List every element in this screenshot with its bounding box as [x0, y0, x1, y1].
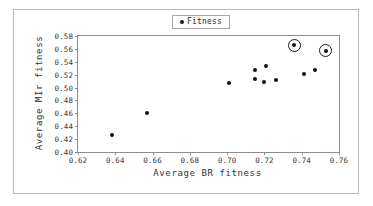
- x-tick-label: 0.74: [292, 156, 310, 165]
- y-tick-label: 0.42: [55, 135, 73, 144]
- y-tick-mark: [75, 126, 78, 127]
- x-tick-label: 0.70: [218, 156, 236, 165]
- data-point: [253, 77, 257, 81]
- data-point: [227, 81, 231, 85]
- y-tick-label: 0.52: [55, 70, 73, 79]
- y-tick-label: 0.46: [55, 109, 73, 118]
- legend-marker-icon: [180, 20, 184, 24]
- y-tick-label: 0.44: [55, 122, 73, 131]
- x-tick-label: 0.68: [181, 156, 199, 165]
- x-tick-label: 0.62: [69, 156, 87, 165]
- y-axis-title: Average MIr fitness: [34, 35, 46, 151]
- x-tick-mark: [78, 152, 79, 155]
- data-point: [313, 68, 317, 72]
- y-tick-mark: [75, 88, 78, 89]
- x-tick-mark: [264, 152, 265, 155]
- data-point: [145, 111, 149, 115]
- y-tick-label: 0.48: [55, 96, 73, 105]
- x-tick-mark: [190, 152, 191, 155]
- x-tick-mark: [302, 152, 303, 155]
- y-tick-mark: [75, 62, 78, 63]
- y-tick-mark: [75, 75, 78, 76]
- y-tick-mark: [75, 100, 78, 101]
- x-axis-title: Average BR fitness: [77, 168, 338, 178]
- y-tick-label: 0.54: [55, 57, 73, 66]
- data-point: [110, 133, 114, 137]
- data-point: [262, 80, 266, 84]
- data-point: [302, 72, 306, 76]
- x-tick-mark: [339, 152, 340, 155]
- y-tick-label: 0.50: [55, 83, 73, 92]
- plot-area: 0.620.640.660.680.700.720.740.760.400.42…: [77, 35, 340, 153]
- y-tick-label: 0.40: [55, 148, 73, 157]
- x-tick-mark: [115, 152, 116, 155]
- y-tick-mark: [75, 139, 78, 140]
- x-tick-label: 0.72: [255, 156, 273, 165]
- data-point: [324, 49, 328, 53]
- y-tick-mark: [75, 36, 78, 37]
- chart-figure: Fitness 0.620.640.660.680.700.720.740.76…: [13, 9, 359, 194]
- x-tick-label: 0.66: [143, 156, 161, 165]
- y-tick-mark: [75, 113, 78, 114]
- data-point: [264, 64, 268, 68]
- data-point: [274, 78, 278, 82]
- y-tick-label: 0.56: [55, 44, 73, 53]
- y-tick-mark: [75, 49, 78, 50]
- x-tick-label: 0.64: [106, 156, 124, 165]
- x-tick-label: 0.76: [330, 156, 348, 165]
- chart-legend: Fitness: [172, 15, 230, 29]
- x-tick-mark: [227, 152, 228, 155]
- x-tick-mark: [153, 152, 154, 155]
- y-tick-label: 0.58: [55, 32, 73, 41]
- data-point: [253, 68, 257, 72]
- y-tick-mark: [75, 152, 78, 153]
- legend-entry-label: Fitness: [187, 18, 222, 26]
